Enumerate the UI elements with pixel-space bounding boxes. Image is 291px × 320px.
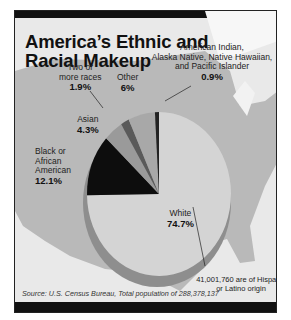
label-aian: American Indian, Alaska Native, Native H… bbox=[145, 43, 277, 81]
source-text: Source: U.S. Census Bureau, Total popula… bbox=[22, 289, 219, 298]
infographic-frame: America’s Ethnic and Racial Makeup Two o… bbox=[14, 10, 277, 313]
label-two-or-more: Two or more races 1.9% bbox=[59, 63, 102, 92]
label-black: Black or African American 12.1% bbox=[35, 147, 71, 185]
label-other: Other 6% bbox=[117, 73, 138, 92]
bottom-bar bbox=[15, 302, 276, 312]
label-asian: Asian 4.3% bbox=[77, 115, 99, 134]
label-white: White 74.7% bbox=[167, 209, 194, 228]
